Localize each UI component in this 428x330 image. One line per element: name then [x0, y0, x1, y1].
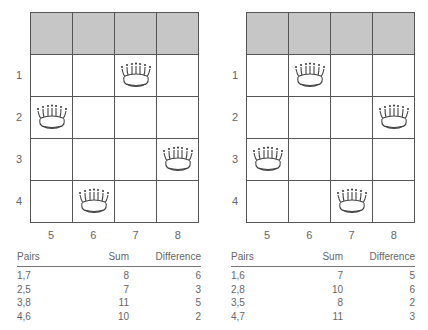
cell-sum: 11 — [291, 310, 343, 324]
board-cell — [331, 55, 373, 97]
column-labels: 5 6 7 8 — [30, 229, 199, 243]
board-cell — [115, 181, 157, 223]
header-cell — [289, 13, 331, 55]
board-cell — [289, 55, 331, 97]
header-pairs: Pairs — [231, 250, 291, 263]
column-label: 6 — [288, 229, 330, 243]
column-label: 8 — [157, 229, 199, 243]
crown-icon — [161, 146, 195, 174]
crown-icon — [251, 146, 285, 174]
table-row: 3,8 11 5 — [17, 296, 201, 310]
board-cell — [247, 139, 289, 181]
row-label: 1 — [228, 69, 242, 81]
column-label: 7 — [331, 229, 373, 243]
cell-pairs: 1,6 — [231, 269, 291, 283]
crown-icon — [293, 62, 327, 90]
cell-sum: 8 — [77, 269, 129, 283]
table-row: 3,5 8 2 — [231, 296, 415, 310]
row-label: 2 — [228, 111, 242, 123]
board-cell — [31, 139, 73, 181]
cell-pairs: 3,8 — [17, 296, 77, 310]
cell-difference: 2 — [343, 296, 415, 310]
board-cell — [157, 181, 199, 223]
pairs-table: Pairs Sum Difference 1,7 8 6 2,5 7 3 3,8… — [17, 250, 201, 323]
crown-icon — [119, 62, 153, 90]
header-sum: Sum — [77, 250, 129, 263]
board-cell — [115, 139, 157, 181]
chessboard — [30, 12, 199, 223]
cell-pairs: 1,7 — [17, 269, 77, 283]
cell-pairs: 4,7 — [231, 310, 291, 324]
header-cell — [247, 13, 289, 55]
cell-sum: 7 — [291, 269, 343, 283]
board-cell — [73, 139, 115, 181]
column-label: 5 — [30, 229, 72, 243]
cell-sum: 7 — [77, 283, 129, 297]
table-header: Pairs Sum Difference — [17, 250, 201, 267]
row-label: 1 — [12, 69, 26, 81]
cell-difference: 6 — [343, 283, 415, 297]
row-labels: 1 2 3 4 — [228, 12, 242, 223]
table-row: 4,7 11 3 — [231, 310, 415, 324]
board-cell — [289, 97, 331, 139]
table-row: 2,8 10 6 — [231, 283, 415, 297]
cell-difference: 5 — [129, 296, 201, 310]
board-cell — [331, 139, 373, 181]
pairs-table: Pairs Sum Difference 1,6 7 5 2,8 10 6 3,… — [231, 250, 415, 323]
header-sum: Sum — [291, 250, 343, 263]
row-labels: 1 2 3 4 — [12, 12, 26, 223]
cell-pairs: 2,5 — [17, 283, 77, 297]
row-label: 2 — [12, 111, 26, 123]
cell-pairs: 2,8 — [231, 283, 291, 297]
board-cell — [247, 97, 289, 139]
cell-difference: 3 — [343, 310, 415, 324]
chessboard — [246, 12, 415, 223]
header-cell — [31, 13, 73, 55]
row-label: 3 — [228, 153, 242, 165]
crown-icon — [77, 188, 111, 216]
cell-difference: 3 — [129, 283, 201, 297]
board-cell — [73, 97, 115, 139]
board-cell — [247, 181, 289, 223]
header-difference: Difference — [129, 250, 201, 263]
header-cell — [73, 13, 115, 55]
column-label: 5 — [246, 229, 288, 243]
cell-pairs: 4,6 — [17, 310, 77, 324]
crown-icon — [377, 104, 411, 132]
header-pairs: Pairs — [17, 250, 77, 263]
board-cell — [115, 55, 157, 97]
board-cell — [31, 97, 73, 139]
crown-icon — [35, 104, 69, 132]
board-cell — [289, 181, 331, 223]
board-cell — [157, 139, 199, 181]
board-cell — [373, 139, 415, 181]
table-row: 4,6 10 2 — [17, 310, 201, 324]
cell-difference: 5 — [343, 269, 415, 283]
row-label: 3 — [12, 153, 26, 165]
table-row: 1,7 8 6 — [17, 269, 201, 283]
table-header: Pairs Sum Difference — [231, 250, 415, 267]
cell-difference: 6 — [129, 269, 201, 283]
board-cell — [331, 181, 373, 223]
board-cell — [73, 181, 115, 223]
board-cell — [247, 55, 289, 97]
cell-sum: 10 — [291, 283, 343, 297]
diagram-right: 1 2 3 4 5 6 7 8 Pairs Sum Difference 1,6… — [214, 0, 428, 330]
column-label: 7 — [115, 229, 157, 243]
header-cell — [115, 13, 157, 55]
column-labels: 5 6 7 8 — [246, 229, 415, 243]
table-row: 1,6 7 5 — [231, 269, 415, 283]
row-label: 4 — [228, 195, 242, 207]
cell-difference: 2 — [129, 310, 201, 324]
board-cell — [373, 55, 415, 97]
board-cell — [289, 139, 331, 181]
header-cell — [331, 13, 373, 55]
header-cell — [373, 13, 415, 55]
crown-icon — [335, 188, 369, 216]
board-cell — [157, 97, 199, 139]
column-label: 8 — [373, 229, 415, 243]
board-cell — [373, 181, 415, 223]
board-cell — [373, 97, 415, 139]
table-row: 2,5 7 3 — [17, 283, 201, 297]
board-cell — [31, 55, 73, 97]
